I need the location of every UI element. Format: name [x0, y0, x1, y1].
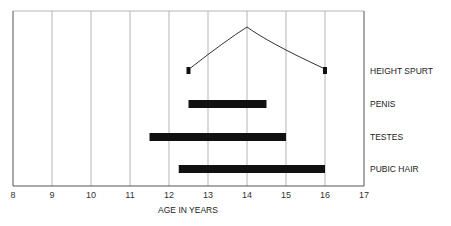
puberty-timeline-chart: 891011121314151617 HEIGHT SPURTPENISTEST… — [0, 0, 451, 226]
plot-frame — [13, 11, 364, 186]
x-tick-label: 14 — [242, 190, 252, 200]
height-spurt-end-marker — [323, 67, 327, 74]
category-label: PENIS — [370, 99, 396, 109]
height-spurt-start-marker — [187, 67, 191, 74]
x-tick-label: 9 — [49, 190, 54, 200]
height-spurt-line — [191, 27, 324, 68]
x-tick-label: 16 — [320, 190, 330, 200]
category-label: PUBIC HAIR — [370, 164, 419, 174]
vertical-gridlines — [52, 11, 325, 186]
x-tick-label: 13 — [203, 190, 213, 200]
range-bar-testes — [150, 133, 287, 141]
x-tick-label: 11 — [125, 190, 134, 200]
category-label: TESTES — [370, 132, 403, 142]
x-axis-tick-labels: 891011121314151617 — [10, 190, 369, 200]
category-label: HEIGHT SPURT — [370, 66, 433, 76]
category-labels: HEIGHT SPURTPENISTESTESPUBIC HAIR — [370, 66, 433, 174]
x-tick-label: 10 — [86, 190, 96, 200]
x-tick-label: 15 — [281, 190, 291, 200]
x-tick-label: 12 — [164, 190, 174, 200]
range-bars — [150, 100, 326, 173]
range-bar-penis — [189, 100, 267, 108]
range-bar-pubic-hair — [179, 165, 325, 173]
x-tick-label: 17 — [359, 190, 369, 200]
x-axis-title: AGE IN YEARS — [158, 205, 218, 215]
x-tick-label: 8 — [10, 190, 15, 200]
